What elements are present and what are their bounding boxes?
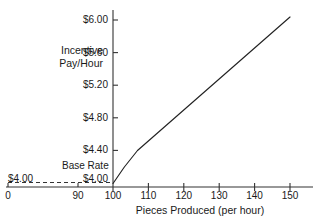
x-tick-label-130: 130 <box>204 190 234 201</box>
base-rate-axis-value: $4.00 <box>60 173 108 184</box>
y-axis-title-line2: Pay/Hour <box>33 57 103 70</box>
y-tick-label-440: $4.40 <box>60 144 108 155</box>
x-axis-title: Pieces Produced (per hour) <box>110 205 290 216</box>
x-tick-label-140: 140 <box>240 190 270 201</box>
y-tick-label-520: $5.20 <box>60 79 108 90</box>
x-tick-label-100: 100 <box>98 190 128 201</box>
x-tick-label-90: 90 <box>63 190 93 201</box>
incentive-pay-chart: $6.00 $5.60 $5.20 $4.80 $4.40 Base Rate … <box>0 0 321 223</box>
x-tick-label-150: 150 <box>275 190 305 201</box>
x-tick-label-110: 110 <box>133 190 163 201</box>
base-rate-label: Base Rate <box>62 160 108 171</box>
y-axis-title-line1: Incentive <box>33 44 103 57</box>
base-rate-left-value: $4.00 <box>8 173 33 184</box>
y-tick-label-600: $6.00 <box>60 14 108 25</box>
y-axis-ticks <box>113 20 118 150</box>
x-tick-label-0: 0 <box>0 190 23 201</box>
incentive-pay-curve <box>113 17 290 184</box>
x-tick-label-120: 120 <box>169 190 199 201</box>
y-tick-label-480: $4.80 <box>60 112 108 123</box>
